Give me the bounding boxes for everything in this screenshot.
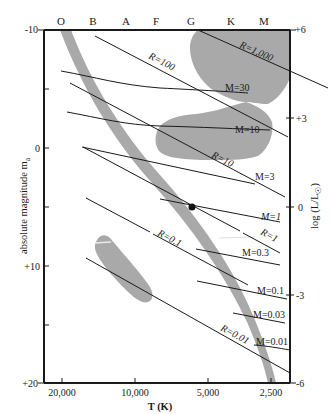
right-tick-pos6: +6 <box>295 24 306 35</box>
right-axis-title-sub: ☉ <box>314 187 323 194</box>
label-m-0-01: M=0.01 <box>256 336 288 347</box>
label-r-1: R=1 <box>258 226 280 245</box>
right-axis-title-main: log (L/L <box>309 194 321 229</box>
right-axis-title-close: ) <box>309 183 321 187</box>
right-tick-0: 0 <box>298 202 303 213</box>
x-tick-2500: 2,500 <box>260 387 283 398</box>
left-tick-pos20: +20 <box>22 378 38 389</box>
label-m-10: M=10 <box>235 124 260 135</box>
label-m-0-1: M=0.1 <box>257 285 284 296</box>
x-tick-20000: 20,000 <box>48 387 76 398</box>
spectral-g: G <box>187 15 195 27</box>
label-m-1: M=1 <box>260 211 281 222</box>
x-axis-title: T (K) <box>148 401 173 413</box>
left-axis-title: absolute magnitude ma <box>18 157 32 254</box>
left-tick-neg10: -10 <box>25 24 38 35</box>
label-r-100: R=100 <box>146 50 177 73</box>
spectral-k: K <box>227 15 235 27</box>
label-m-0-03: M=0.03 <box>253 309 285 320</box>
right-tick-neg6: -6 <box>296 378 304 389</box>
line-r-0-1-a <box>86 198 150 232</box>
left-axis-title-sub: a <box>23 157 32 161</box>
spectral-class-labels: O B A F G K M <box>57 15 269 27</box>
regions <box>60 30 290 383</box>
spectral-m: M <box>259 15 269 27</box>
white-dwarf-region <box>95 235 153 302</box>
hr-diagram: R=1,000 R=100 R=10 R=1 R=0.1 R=0.01 M=30… <box>0 0 335 414</box>
bottom-axis-labels: 20,000 10,000 5,000 2,500 <box>48 387 282 398</box>
label-r-0-01: R=0.01 <box>218 322 251 346</box>
left-tick-pos10: +10 <box>24 261 40 272</box>
x-tick-10000: 10,000 <box>121 387 149 398</box>
spectral-o: O <box>57 15 65 27</box>
spectral-a: A <box>122 15 130 27</box>
label-m-30: M=30 <box>225 82 250 93</box>
sun-marker <box>189 204 196 211</box>
right-tick-pos3: +3 <box>296 113 307 124</box>
right-axis-title: log (L/L☉) <box>309 183 323 229</box>
spectral-f: F <box>153 15 159 27</box>
left-tick-0: 0 <box>35 143 40 154</box>
right-tick-neg3: -3 <box>296 290 304 301</box>
spectral-b: B <box>89 15 96 27</box>
right-axis-labels: +6 +3 0 -3 -6 <box>295 24 307 389</box>
label-m-3: M=3 <box>255 171 275 182</box>
label-r-0-1: R=0.1 <box>155 227 183 249</box>
left-axis-title-main: absolute magnitude m <box>18 161 29 254</box>
x-tick-5000: 5,000 <box>197 387 220 398</box>
label-m-0-3: M=0.3 <box>242 247 269 258</box>
